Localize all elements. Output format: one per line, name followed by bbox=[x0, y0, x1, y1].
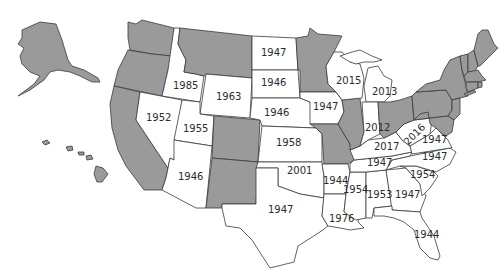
label-oklahoma: 2001 bbox=[287, 165, 312, 176]
label-wisconsin: 2015 bbox=[336, 75, 361, 86]
label-wyoming: 1963 bbox=[216, 91, 241, 102]
label-iowa: 1947 bbox=[313, 101, 338, 112]
state-washington bbox=[128, 20, 174, 56]
state-maine bbox=[474, 30, 498, 66]
state-new-mexico bbox=[206, 158, 258, 208]
label-texas: 1947 bbox=[268, 204, 293, 215]
label-florida: 1944 bbox=[414, 229, 439, 240]
label-michigan: 2013 bbox=[372, 86, 397, 97]
label-tennessee: 1947 bbox=[367, 157, 392, 168]
state-alaska bbox=[18, 22, 100, 96]
label-indiana: 2012 bbox=[365, 122, 390, 133]
label-kentucky: 2017 bbox=[374, 141, 399, 152]
label-nebraska: 1946 bbox=[264, 107, 289, 118]
label-kansas: 1958 bbox=[276, 137, 301, 148]
state-rhode-island bbox=[478, 82, 482, 88]
state-montana bbox=[178, 28, 252, 78]
label-utah: 1955 bbox=[183, 123, 208, 134]
label-mississippi: 1954 bbox=[343, 184, 368, 195]
label-idaho: 1985 bbox=[173, 80, 198, 91]
label-north-carolina: 1947 bbox=[422, 151, 447, 162]
label-south-carolina: 1954 bbox=[410, 169, 435, 180]
label-virginia: 1947 bbox=[422, 134, 447, 145]
label-louisiana: 1976 bbox=[329, 213, 354, 224]
label-north-dakota: 1947 bbox=[261, 47, 286, 58]
label-arizona: 1946 bbox=[178, 171, 203, 182]
state-hawaii bbox=[42, 140, 108, 182]
label-nevada: 1952 bbox=[146, 112, 171, 123]
label-south-dakota: 1946 bbox=[261, 77, 286, 88]
state-colorado bbox=[212, 116, 260, 162]
label-georgia: 1947 bbox=[395, 189, 420, 200]
label-alabama: 1953 bbox=[367, 189, 392, 200]
us-states-map: 1947 1946 1946 1958 2001 1947 1985 1963 … bbox=[0, 0, 501, 279]
